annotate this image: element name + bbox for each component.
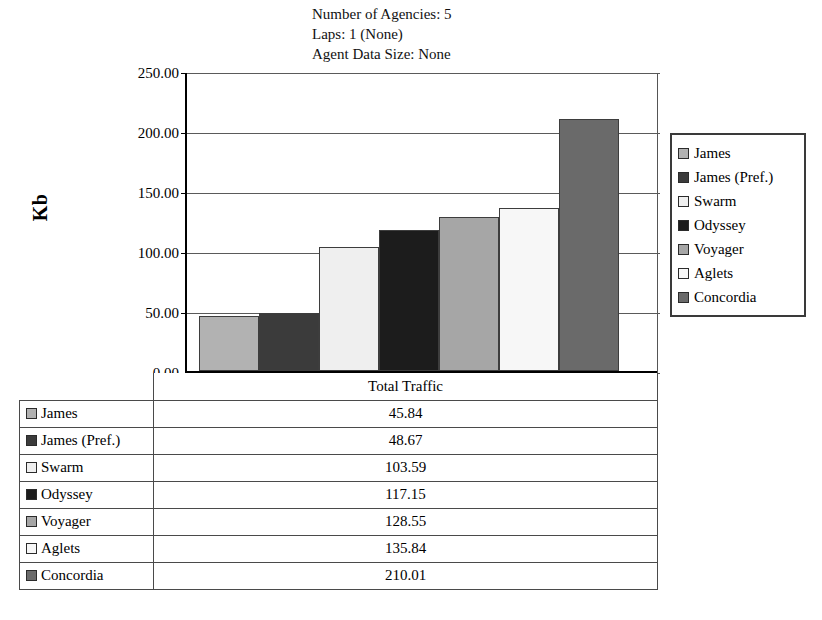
series-name-label: Voyager bbox=[41, 513, 91, 529]
table-header-total-traffic: Total Traffic bbox=[154, 373, 658, 400]
series-swatch-icon bbox=[26, 408, 37, 419]
bar-swarm bbox=[319, 247, 379, 371]
title-line-1: Number of Agencies: 5 bbox=[312, 4, 712, 24]
chart-title-block: Number of Agencies: 5 Laps: 1 (None) Age… bbox=[312, 4, 712, 64]
table-row: Concordia210.01 bbox=[20, 562, 658, 589]
table-cell-series-name: James bbox=[20, 400, 154, 427]
series-name-label: Aglets bbox=[41, 540, 80, 556]
title-line-3: Agent Data Size: None bbox=[312, 44, 712, 64]
legend-item[interactable]: Aglets bbox=[678, 261, 799, 285]
series-swatch-icon bbox=[26, 543, 37, 554]
table-cell-series-name: James (Pref.) bbox=[20, 427, 154, 454]
legend-item[interactable]: Swarm bbox=[678, 189, 799, 213]
series-swatch-icon bbox=[26, 516, 37, 527]
y-tick-label: 50.00 bbox=[145, 305, 179, 322]
table-cell-value: 135.84 bbox=[154, 535, 658, 562]
plot-area: 0.0050.00100.00150.00200.00250.00 bbox=[185, 73, 658, 373]
y-tick-mark bbox=[181, 253, 187, 254]
series-swatch-icon bbox=[26, 489, 37, 500]
legend-item-label: Voyager bbox=[694, 241, 744, 258]
legend-item-label: James (Pref.) bbox=[694, 169, 773, 186]
plot-border-right bbox=[657, 73, 658, 373]
table-cell-value: 128.55 bbox=[154, 508, 658, 535]
series-name-label: Concordia bbox=[41, 567, 103, 583]
legend-swatch-icon bbox=[678, 220, 689, 231]
series-name-label: Odyssey bbox=[41, 486, 93, 502]
table-cell-series-name: Odyssey bbox=[20, 481, 154, 508]
table-cell-series-name: Voyager bbox=[20, 508, 154, 535]
bar-concordia bbox=[559, 119, 619, 371]
legend-item-label: James bbox=[694, 145, 731, 162]
series-swatch-icon bbox=[26, 435, 37, 446]
y-tick-label: 100.00 bbox=[138, 245, 179, 262]
plot-frame: 0.0050.00100.00150.00200.00250.00 bbox=[185, 73, 658, 373]
table-row: James45.84 bbox=[20, 400, 658, 427]
legend-swatch-icon bbox=[678, 244, 689, 255]
legend-item-label: Aglets bbox=[694, 265, 733, 282]
series-swatch-icon bbox=[26, 570, 37, 581]
legend-swatch-icon bbox=[678, 196, 689, 207]
legend-item-label: Swarm bbox=[694, 193, 737, 210]
y-tick-mark bbox=[181, 73, 187, 74]
bar-voyager bbox=[439, 217, 499, 371]
legend-item-label: Odyssey bbox=[694, 217, 746, 234]
y-tick-mark bbox=[181, 193, 187, 194]
bar-aglets bbox=[499, 208, 559, 371]
table-cell-series-name: Aglets bbox=[20, 535, 154, 562]
series-swatch-icon bbox=[26, 462, 37, 473]
table-row: Aglets135.84 bbox=[20, 535, 658, 562]
legend-swatch-icon bbox=[678, 172, 689, 183]
table-row: Swarm103.59 bbox=[20, 454, 658, 481]
table-cell-value: 103.59 bbox=[154, 454, 658, 481]
table-header-row: Total Traffic bbox=[20, 373, 658, 400]
legend-item[interactable]: Concordia bbox=[678, 285, 799, 309]
y-axis-title: Kb bbox=[29, 178, 52, 238]
bar-james bbox=[199, 316, 259, 371]
legend-item-label: Concordia bbox=[694, 289, 756, 306]
legend-swatch-icon bbox=[678, 292, 689, 303]
series-name-label: James bbox=[41, 405, 78, 421]
data-table: Total Traffic James45.84James (Pref.)48.… bbox=[19, 373, 658, 590]
table-cell-value: 48.67 bbox=[154, 427, 658, 454]
chart-legend: JamesJames (Pref.)SwarmOdysseyVoyagerAgl… bbox=[670, 133, 806, 317]
bar-james-pref bbox=[259, 313, 319, 371]
legend-item[interactable]: James (Pref.) bbox=[678, 165, 799, 189]
legend-swatch-icon bbox=[678, 268, 689, 279]
y-tick-label: 150.00 bbox=[138, 185, 179, 202]
bar-odyssey bbox=[379, 230, 439, 371]
table-row: Odyssey117.15 bbox=[20, 481, 658, 508]
table-cell-value: 117.15 bbox=[154, 481, 658, 508]
legend-item[interactable]: James bbox=[678, 141, 799, 165]
y-tick-label: 200.00 bbox=[138, 125, 179, 142]
legend-item[interactable]: Voyager bbox=[678, 237, 799, 261]
table-cell-value: 210.01 bbox=[154, 562, 658, 589]
y-tick-mark bbox=[181, 133, 187, 134]
table-cell-series-name: Concordia bbox=[20, 562, 154, 589]
y-tick-label: 250.00 bbox=[138, 65, 179, 82]
table-row: James (Pref.)48.67 bbox=[20, 427, 658, 454]
table-cell-value: 45.84 bbox=[154, 400, 658, 427]
series-name-label: Swarm bbox=[41, 459, 84, 475]
table-header-spacer bbox=[20, 373, 154, 400]
title-line-2: Laps: 1 (None) bbox=[312, 24, 712, 44]
table-row: Voyager128.55 bbox=[20, 508, 658, 535]
series-name-label: James (Pref.) bbox=[41, 432, 120, 448]
legend-item[interactable]: Odyssey bbox=[678, 213, 799, 237]
legend-swatch-icon bbox=[678, 148, 689, 159]
y-tick-mark bbox=[181, 313, 187, 314]
bar-series bbox=[199, 71, 619, 371]
table-cell-series-name: Swarm bbox=[20, 454, 154, 481]
